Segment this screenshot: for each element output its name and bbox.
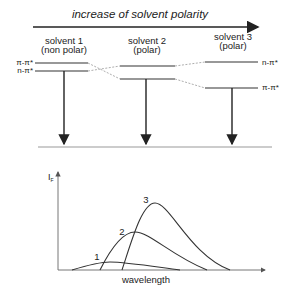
solvent-1-type: (non polar) [41, 44, 87, 55]
y-axis-label: IF [48, 172, 54, 183]
solvatochromism-diagram: increase of solvent polarity solvent 1 (… [0, 0, 295, 299]
curve-3-label: 3 [143, 194, 148, 205]
solvent-3-type: (polar) [219, 40, 246, 51]
emission-arrows [64, 71, 232, 144]
polarity-title: increase of solvent polarity [72, 8, 209, 20]
curve-2 [100, 232, 207, 270]
level-label-n-pi-left: n-π* [17, 66, 33, 75]
x-axis-label: wavelength [121, 274, 170, 285]
level-label-pi-pi-right: π-π* [262, 83, 279, 92]
level-label-n-pi-right: n-π* [262, 58, 278, 67]
solvent-2-type: (polar) [133, 44, 160, 55]
curve-2-label: 2 [119, 226, 124, 237]
curve-1-label: 1 [94, 251, 99, 262]
curve-3 [122, 203, 230, 270]
curve-1 [72, 262, 180, 270]
